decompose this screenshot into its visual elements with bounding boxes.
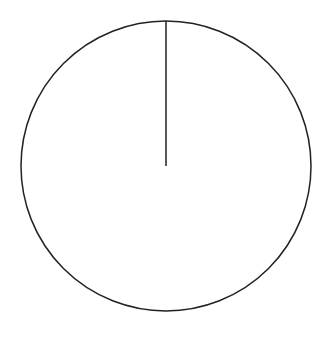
- pie-chart: [0, 0, 325, 341]
